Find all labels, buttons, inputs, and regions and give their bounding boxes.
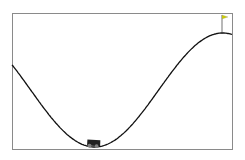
- game-canvas: [0, 0, 245, 160]
- viewport-frame: [13, 14, 233, 150]
